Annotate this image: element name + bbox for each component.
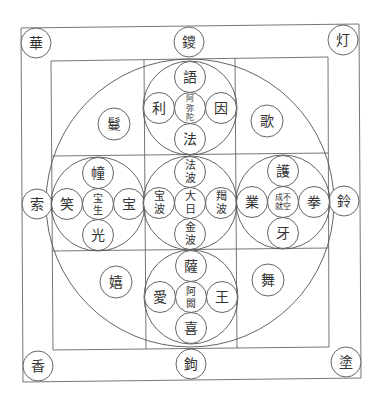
gate-top-label: 鑁 <box>182 34 196 50</box>
corner-top-left: 華 <box>21 28 51 58</box>
amitabha-west-top-label: 語 <box>183 69 197 85</box>
akshobhya-east-left: 愛 <box>145 282 176 313</box>
vairocana-center-right-label: 波 <box>216 203 227 216</box>
ratnasambhava-south-left: 笑 <box>52 189 83 220</box>
vairocana-center-top: 法波 <box>175 157 206 188</box>
gate-left: 索 <box>22 189 52 219</box>
amoghasiddhi-north-center-label: 成不 <box>275 192 291 202</box>
akshobhya-east-right: 王 <box>207 282 238 313</box>
akshobhya-east-left-label: 愛 <box>153 289 167 305</box>
vairocana-center-left: 宝波 <box>144 188 175 219</box>
gate-left-label: 索 <box>30 196 44 212</box>
vairocana-center-center-label: 日 <box>185 203 196 216</box>
amitabha-west-center-label: 弥 <box>186 103 194 113</box>
vairocana-center-top-label: 波 <box>185 172 196 185</box>
offering-top-left: 鬘 <box>98 108 130 140</box>
vairocana-center-bottom-label: 金 <box>185 220 196 234</box>
vairocana-center-right: 羯波 <box>206 188 237 219</box>
akshobhya-east-bottom: 喜 <box>176 313 207 344</box>
offering-bottom-left: 嬉 <box>100 266 132 298</box>
corner-bottom-right: 塗 <box>331 347 361 377</box>
akshobhya-east-center: 阿閦 <box>176 282 207 313</box>
gate-top: 鑁 <box>174 27 204 57</box>
amitabha-west-bottom-label: 法 <box>183 131 197 147</box>
mandala-diagram: 華灯香塗鑁索鈴鉤鬘歌嬉舞語法利因阿弥陀幢光笑宝宝生法波金波宝波羯波大日護牙業拳成… <box>0 0 380 406</box>
amoghasiddhi-north-bottom: 牙 <box>268 218 299 249</box>
vairocana-center-bottom: 金波 <box>175 219 206 250</box>
corner-bottom-right-label: 塗 <box>339 354 353 370</box>
mandala-svg: 華灯香塗鑁索鈴鉤鬘歌嬉舞語法利因阿弥陀幢光笑宝宝生法波金波宝波羯波大日護牙業拳成… <box>0 0 380 406</box>
offering-bottom-right-label: 舞 <box>261 272 275 288</box>
amitabha-west-right: 因 <box>206 93 237 124</box>
corner-top-left-label: 華 <box>29 35 43 51</box>
amoghasiddhi-north-right: 拳 <box>299 187 330 218</box>
ratnasambhava-south-center-label: 宝 <box>93 192 103 204</box>
figures-layer: 華灯香塗鑁索鈴鉤鬘歌嬉舞語法利因阿弥陀幢光笑宝宝生法波金波宝波羯波大日護牙業拳成… <box>21 25 361 381</box>
amitabha-west-center-label: 陀 <box>186 112 194 122</box>
akshobhya-east-top: 薩 <box>176 251 207 282</box>
offering-bottom-right: 舞 <box>252 264 284 296</box>
vairocana-center-top-label: 法 <box>185 158 196 172</box>
gate-right: 鈴 <box>329 186 359 216</box>
amitabha-west-center: 阿弥陀 <box>175 93 206 124</box>
akshobhya-east-center-label: 閦 <box>186 298 196 309</box>
corner-bottom-left: 香 <box>23 351 53 381</box>
vairocana-center-center: 大日 <box>175 188 206 219</box>
amitabha-west-bottom: 法 <box>175 124 206 155</box>
ratnasambhava-south-bottom: 光 <box>83 220 114 251</box>
amitabha-west-center-label: 阿 <box>186 94 194 103</box>
amoghasiddhi-north-left-label: 業 <box>245 194 259 210</box>
amoghasiddhi-north-center: 成不就空 <box>268 187 299 218</box>
offering-top-right-label: 歌 <box>260 113 274 129</box>
ratnasambhava-south-top: 幢 <box>83 158 114 189</box>
ratnasambhava-south-right-label: 宝 <box>122 196 136 212</box>
offering-bottom-left-label: 嬉 <box>109 274 123 290</box>
amitabha-west-left: 利 <box>144 93 175 124</box>
akshobhya-east-bottom-label: 喜 <box>184 320 198 336</box>
ratnasambhava-south-top-label: 幢 <box>91 165 105 181</box>
corner-top-right: 灯 <box>328 25 358 55</box>
vairocana-center-bottom-label: 波 <box>185 234 196 247</box>
amitabha-west-right-label: 因 <box>214 100 228 116</box>
amoghasiddhi-north-bottom-label: 牙 <box>276 225 290 241</box>
akshobhya-east-top-label: 薩 <box>184 258 198 274</box>
vairocana-center-center-label: 大 <box>185 189 196 203</box>
amoghasiddhi-north-left: 業 <box>237 187 268 218</box>
corner-bottom-left-label: 香 <box>31 358 45 374</box>
amoghasiddhi-north-top-label: 護 <box>276 163 290 179</box>
ratnasambhava-south-bottom-label: 光 <box>91 227 105 243</box>
amoghasiddhi-north-center-label: 就空 <box>275 201 291 211</box>
ratnasambhava-south-center-label: 生 <box>93 204 103 216</box>
ratnasambhava-south-left-label: 笑 <box>60 196 74 212</box>
gate-right-label: 鈴 <box>337 193 351 209</box>
corner-top-right-label: 灯 <box>336 32 350 48</box>
amitabha-west-left-label: 利 <box>152 100 166 116</box>
amoghasiddhi-north-top: 護 <box>268 156 299 187</box>
gate-bottom: 鉤 <box>176 349 206 379</box>
gate-bottom-label: 鉤 <box>184 356 198 372</box>
amitabha-west-top: 語 <box>175 62 206 93</box>
vairocana-center-left-label: 宝 <box>154 189 165 203</box>
offering-top-right: 歌 <box>251 105 283 137</box>
ratnasambhava-south-center: 宝生 <box>83 189 114 220</box>
vairocana-center-left-label: 波 <box>154 203 165 216</box>
amoghasiddhi-north-right-label: 拳 <box>307 194 321 210</box>
akshobhya-east-center-label: 阿 <box>186 286 196 297</box>
offering-top-left-label: 鬘 <box>107 116 121 132</box>
ratnasambhava-south-right: 宝 <box>114 189 145 220</box>
akshobhya-east-right-label: 王 <box>215 289 229 305</box>
vairocana-center-right-label: 羯 <box>216 189 227 203</box>
